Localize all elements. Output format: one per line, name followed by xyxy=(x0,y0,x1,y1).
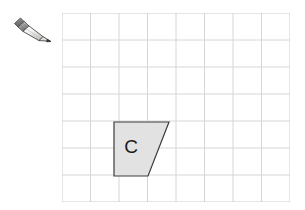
shape-c xyxy=(114,122,169,176)
grid-svg xyxy=(62,13,290,202)
worksheet-canvas: C xyxy=(0,0,305,210)
grid-figure xyxy=(62,13,290,202)
pencil-icon-svg xyxy=(12,13,54,47)
pencil-icon xyxy=(12,13,54,47)
shape-layer xyxy=(114,122,169,176)
grid-lines xyxy=(62,13,290,202)
